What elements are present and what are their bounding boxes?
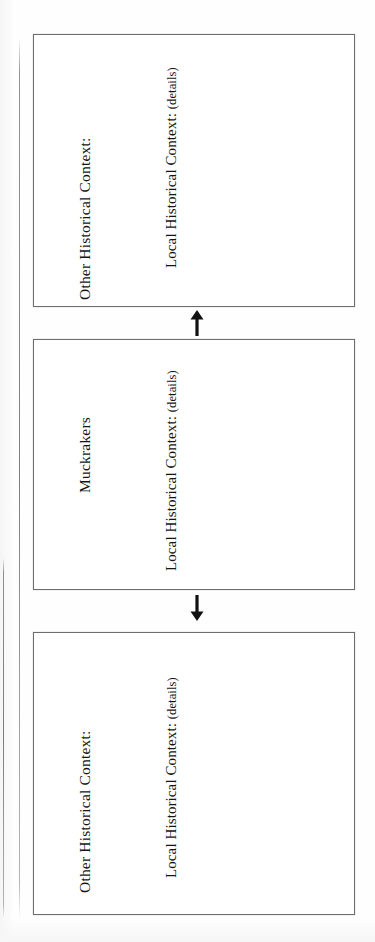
box-3-text-layer: Other Historical Context: Local Historic… xyxy=(34,633,354,914)
box-3-detail-suffix: (details) xyxy=(165,677,179,719)
context-box-other-historical-top[interactable]: Other Historical Context: Local Historic… xyxy=(33,34,355,307)
scan-fold-line-inner xyxy=(19,38,20,918)
arrow-down-icon xyxy=(186,595,208,621)
scan-bottom-edge xyxy=(0,918,375,942)
box-1-detail-label: Local Historical Context: (details) xyxy=(164,67,179,268)
scanned-page: Other Historical Context: Local Historic… xyxy=(0,0,375,942)
box-3-detail-text: Local Historical Context: xyxy=(163,723,179,878)
box-2-text-layer: Muckrakers Local Historical Context: (de… xyxy=(34,340,354,589)
box-2-detail-text: Local Historical Context: xyxy=(163,416,179,571)
context-box-other-historical-bottom[interactable]: Other Historical Context: Local Historic… xyxy=(33,632,355,915)
box-3-title: Other Historical Context: xyxy=(77,730,93,893)
scan-fold-line-outer xyxy=(3,558,4,918)
context-box-muckrakers[interactable]: Muckrakers Local Historical Context: (de… xyxy=(33,339,355,590)
arrow-up-icon xyxy=(186,310,208,336)
box-1-text-layer: Other Historical Context: Local Historic… xyxy=(34,35,354,306)
box-1-detail-text: Local Historical Context: xyxy=(163,113,179,268)
box-2-title: Muckrakers xyxy=(77,417,93,493)
box-2-detail-label: Local Historical Context: (details) xyxy=(164,370,179,571)
box-1-detail-suffix: (details) xyxy=(165,67,179,109)
box-2-detail-suffix: (details) xyxy=(165,370,179,412)
box-3-detail-label: Local Historical Context: (details) xyxy=(164,677,179,878)
box-1-title: Other Historical Context: xyxy=(77,137,93,300)
